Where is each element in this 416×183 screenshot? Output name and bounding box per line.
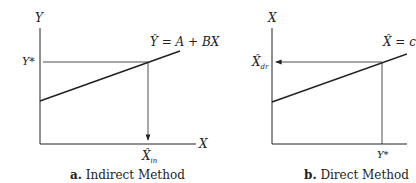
y-star-label: Y*	[377, 150, 389, 160]
caption-a: a. Indirect Method	[70, 168, 185, 182]
caption-b: b. Direct Method	[304, 168, 409, 182]
x-hat-in-label: X̂in	[142, 150, 157, 165]
x-hat-dr-label: X̂dr	[252, 56, 268, 71]
equation-label: Ŷ = A + BX	[150, 36, 219, 48]
regression-line	[272, 54, 407, 102]
x-axis-label: X	[199, 138, 208, 150]
y-star-label: Y*	[22, 56, 35, 67]
regression-line	[40, 51, 180, 101]
equation-label: X̂ = c	[383, 36, 416, 48]
y-axis-label: Y	[35, 12, 43, 24]
x-axis-label: X	[268, 12, 277, 24]
